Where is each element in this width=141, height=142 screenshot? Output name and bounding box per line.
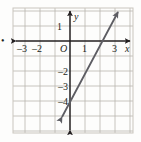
x-tick-label-1: 1 xyxy=(82,43,87,54)
x-axis-label: x xyxy=(124,43,130,54)
y-tick-label-neg4: –4 xyxy=(57,96,68,107)
y-tick-label-1: 1 xyxy=(57,21,62,32)
graph-figure: –3 –2 1 3 O 1 –2 –3 –4 x y • xyxy=(0,0,141,142)
origin-label: O xyxy=(60,43,67,54)
coordinate-plane-svg: –3 –2 1 3 O 1 –2 –3 –4 x y • xyxy=(0,0,141,142)
x-tick-label-neg2: –2 xyxy=(31,43,42,54)
x-tick-label-neg3: –3 xyxy=(16,43,27,54)
y-axis-label: y xyxy=(73,11,79,22)
x-tick-label-3: 3 xyxy=(112,43,117,54)
y-tick-label-neg3: –3 xyxy=(57,81,68,92)
bullet-marker: • xyxy=(1,35,5,46)
y-tick-label-neg2: –2 xyxy=(57,66,68,77)
